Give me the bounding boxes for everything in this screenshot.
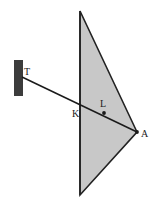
label-t: T (24, 67, 30, 77)
point-a-dot (135, 130, 139, 134)
label-k: K (72, 109, 79, 119)
label-l: L (100, 99, 106, 109)
dark-block-rect (14, 60, 23, 96)
figure-container: T K L A (0, 0, 153, 217)
label-a: A (141, 129, 148, 139)
point-l-dot (102, 111, 106, 115)
shaded-triangle (80, 11, 137, 195)
